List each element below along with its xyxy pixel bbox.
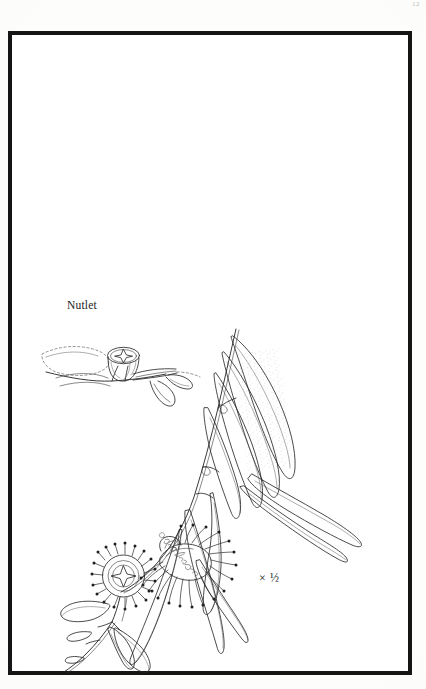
nutlet-label: Nutlet: [67, 299, 97, 311]
illustration-plate: 12 .ln { fill:none; stroke:#2a2a2a; stro…: [0, 0, 426, 689]
plate-frame: [8, 31, 412, 675]
page-number: 12: [412, 0, 420, 8]
scale-label: × ½: [259, 571, 280, 586]
